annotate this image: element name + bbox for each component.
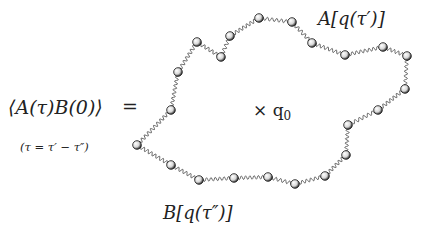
spring-segment (312, 43, 345, 56)
correlator-lhs: ⟨A(τ)B(0)⟩ (8, 96, 103, 118)
spring-segment (403, 56, 408, 89)
spring-segment (171, 165, 199, 180)
bead (291, 180, 300, 189)
spring-segment (234, 175, 268, 179)
spring-segment (137, 145, 171, 165)
equals-sign: = (122, 95, 138, 117)
bead (174, 68, 183, 77)
spring-segment (137, 110, 171, 145)
bead (133, 141, 142, 150)
bead (195, 176, 204, 185)
spring-segment (259, 17, 292, 24)
bead (379, 43, 388, 52)
label-b-q-tau-double-prime: B[q(τ″)] (162, 202, 233, 223)
times-q-text: × q (253, 100, 284, 120)
label-a-q-tau-prime: A[q(τ′)] (316, 8, 386, 29)
bead (321, 172, 330, 181)
bead (226, 32, 235, 41)
spring-segment (170, 72, 179, 110)
spring-segment (178, 42, 197, 72)
bead (217, 53, 226, 62)
bead (401, 85, 410, 94)
center-q0-label: × q0 (253, 100, 291, 123)
bead (341, 51, 350, 60)
bead (264, 173, 273, 182)
spring-segment (348, 110, 378, 125)
spring-segment (230, 18, 259, 36)
spring-segment (199, 177, 234, 182)
bead (344, 121, 353, 130)
bead (167, 161, 176, 170)
bead (308, 39, 317, 48)
tau-definition: (τ = τ′ − τ″) (20, 140, 89, 154)
q-subscript: 0 (284, 109, 292, 123)
bead (374, 106, 383, 115)
bead (255, 14, 264, 23)
bead (193, 38, 202, 47)
bead (167, 106, 176, 115)
path-integral-diagram: ⟨A(τ)B(0)⟩ = (τ = τ′ − τ″) × q0 A[q(τ′)]… (0, 0, 426, 230)
bead (403, 52, 412, 61)
bead (230, 174, 239, 183)
bead (342, 151, 351, 160)
bead (288, 18, 297, 27)
spring-segment (345, 46, 383, 55)
spring-segment (378, 89, 405, 110)
